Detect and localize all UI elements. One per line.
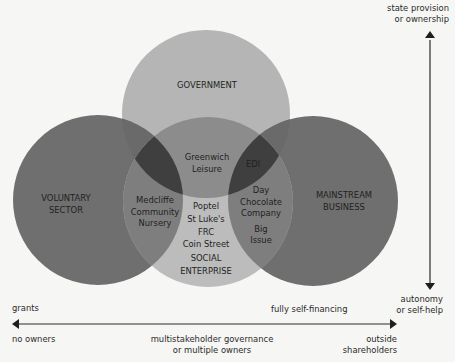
example-line: Big [240,224,282,236]
axis-top-label: state provision or ownership [387,3,449,25]
example-line: Day [240,185,282,197]
axis-top-line2: or ownership [387,14,449,25]
example-line: FRC [180,226,232,239]
example-line: Greenwich [185,152,229,164]
voluntary-label-line1: VOLUNTARY [41,193,90,205]
axis-grants-label: grants [12,303,39,314]
axis-bottom-label: autonomy or self-help [396,294,443,316]
example-line: Nursery [131,218,179,230]
example-line: Coin Street [180,238,232,251]
axis-bottom-line2: or self-help [396,305,443,316]
axis-bottom-line1: autonomy [396,294,443,305]
horizontal-axis-arrow [12,319,397,329]
axis-no-owners-label: no owners [12,334,55,345]
mainstream-business-label: MAINSTREAM BUSINESS [316,190,372,213]
example-line: Company [240,208,282,220]
example-line: Issue [240,235,282,247]
example-social-only: Poptel St Luke's FRC Coin Street SOCIAL … [180,200,232,278]
example-line: Chocolate [240,197,282,209]
social-enterprise-label-line1: SOCIAL [180,252,232,265]
example-line: Leisure [185,164,229,176]
voluntary-sector-label: VOLUNTARY SECTOR [41,193,90,216]
axis-top-line1: state provision [387,3,449,14]
example-greenwich-leisure: Greenwich Leisure [185,152,229,175]
axis-self-financing-label: fully self-financing [271,304,347,315]
example-line: Medcliffe [131,195,179,207]
axis-middle-line1: multistakeholder governance [151,334,274,345]
axis-multistakeholder-label: multistakeholder governance or multiple … [151,334,274,356]
axis-right-line2: shareholders [343,345,397,356]
axis-middle-line2: or multiple owners [151,345,274,356]
vertical-axis-arrow [425,31,435,290]
social-enterprise-label-line2: ENTERPRISE [180,265,232,278]
axis-right-line1: outside [343,334,397,345]
axis-outside-shareholders-label: outside shareholders [343,334,397,356]
voluntary-label-line2: SECTOR [41,205,90,217]
example-line: Poptel [180,200,232,213]
example-edi: EDI [246,159,260,171]
mainstream-label-line1: MAINSTREAM [316,190,372,202]
example-day-chocolate-big-issue: Day Chocolate Company Big Issue [240,185,282,247]
example-line: St Luke's [180,213,232,226]
mainstream-label-line2: BUSINESS [316,202,372,214]
venn-diagram [0,0,455,362]
example-medcliffe-nursery: Medcliffe Community Nursery [131,195,179,230]
government-label: GOVERNMENT [177,80,237,92]
example-line: Community [131,207,179,219]
